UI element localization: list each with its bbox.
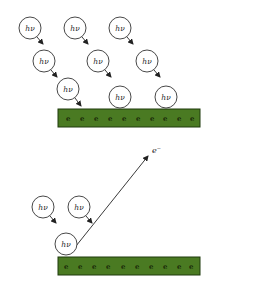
photon: hν bbox=[109, 17, 131, 39]
electron: e bbox=[135, 262, 140, 271]
svg-text:hν: hν bbox=[61, 240, 71, 249]
electron: e bbox=[94, 114, 99, 123]
electron: e bbox=[177, 114, 182, 123]
svg-text:hν: hν bbox=[93, 57, 103, 66]
emitted-electron-label: e⁻ bbox=[152, 146, 161, 155]
electron: e bbox=[106, 262, 111, 271]
photon: hν bbox=[64, 17, 86, 39]
electron: e bbox=[66, 114, 71, 123]
photon: hν bbox=[136, 50, 158, 72]
svg-text:hν: hν bbox=[38, 203, 48, 212]
svg-text:hν: hν bbox=[74, 203, 84, 212]
electron: e bbox=[189, 262, 194, 271]
electron: e bbox=[163, 114, 168, 123]
svg-text:hν: hν bbox=[39, 57, 49, 66]
photon: hν bbox=[19, 17, 41, 39]
svg-text:hν: hν bbox=[63, 85, 73, 94]
top-panel: hν hν hν hν hν hν hν e e e e e e e e e e… bbox=[19, 17, 200, 127]
photon: hν bbox=[87, 50, 109, 72]
bottom-panel: e⁻ hν hν e e e e e e e e e e hν bbox=[32, 146, 200, 275]
electron: e bbox=[163, 262, 168, 271]
electron: e bbox=[150, 114, 155, 123]
svg-text:hν: hν bbox=[161, 93, 171, 102]
photon: hν bbox=[57, 78, 79, 100]
electron: e bbox=[136, 114, 141, 123]
arrow-icon bbox=[82, 37, 88, 44]
electron: e bbox=[80, 114, 85, 123]
electron: e bbox=[92, 262, 97, 271]
arrow-icon bbox=[105, 70, 111, 77]
arrow-icon bbox=[154, 70, 160, 77]
electron: e bbox=[177, 262, 182, 271]
electron: e bbox=[149, 262, 154, 271]
svg-text:hν: hν bbox=[142, 57, 152, 66]
photon: hν bbox=[109, 86, 131, 108]
photon: hν bbox=[155, 86, 177, 108]
arrow-icon bbox=[75, 98, 81, 106]
svg-text:hν: hν bbox=[25, 24, 35, 33]
photon: hν bbox=[68, 196, 90, 218]
electron: e bbox=[190, 114, 195, 123]
electron: e bbox=[108, 114, 113, 123]
svg-text:hν: hν bbox=[70, 24, 80, 33]
arrow-icon bbox=[37, 37, 43, 44]
photon: hν bbox=[32, 196, 54, 218]
electron: e bbox=[122, 114, 127, 123]
photon: hν bbox=[55, 233, 77, 255]
metal-plate: e e e e e e e e e e bbox=[58, 109, 200, 127]
arrow-icon bbox=[86, 216, 92, 223]
arrow-icon bbox=[51, 70, 57, 77]
arrow-icon bbox=[50, 216, 56, 223]
electron: e bbox=[64, 262, 69, 271]
arrow-icon bbox=[127, 37, 133, 44]
svg-text:hν: hν bbox=[115, 24, 125, 33]
metal-plate: e e e e e e e e e e bbox=[58, 257, 200, 275]
electron: e bbox=[78, 262, 83, 271]
svg-text:hν: hν bbox=[115, 93, 125, 102]
photon: hν bbox=[33, 50, 55, 72]
photoelectric-diagram: hν hν hν hν hν hν hν e e e e e e e e e e… bbox=[0, 0, 253, 290]
electron: e bbox=[121, 262, 126, 271]
